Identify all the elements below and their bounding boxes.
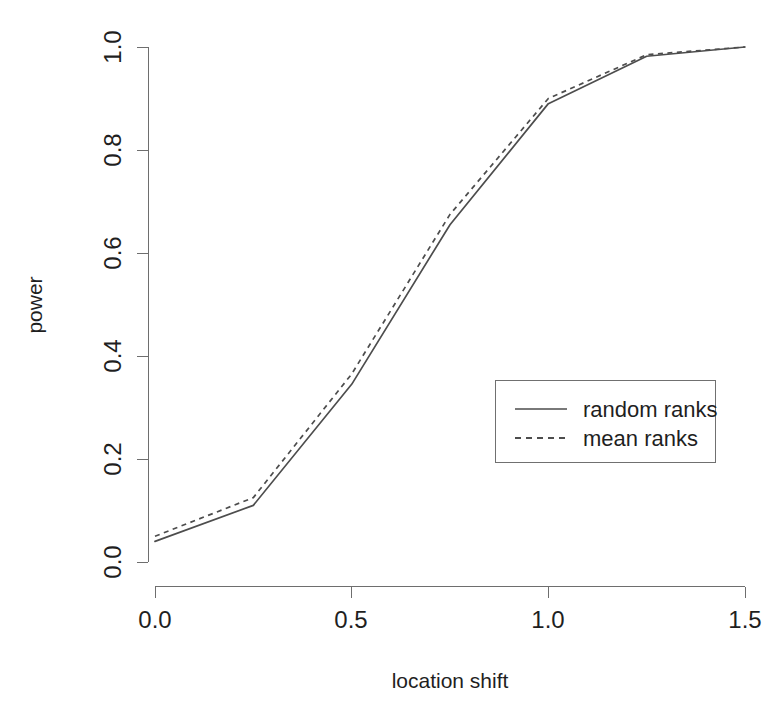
legend-label-mean-ranks: mean ranks	[583, 426, 698, 451]
y-tick-label: 0.6	[99, 236, 126, 269]
y-tick-label: 0.8	[99, 133, 126, 166]
y-tick-label: 0.4	[99, 339, 126, 372]
x-tick-group: 0.0 0.5 1.0 1.5	[138, 587, 761, 633]
legend-label-random-ranks: random ranks	[583, 397, 718, 422]
y-tick-label: 0.2	[99, 442, 126, 475]
x-axis-title: location shift	[392, 669, 509, 692]
series-random-ranks	[155, 47, 745, 541]
y-tick-label: 1.0	[99, 30, 126, 63]
x-tick-label: 1.5	[728, 606, 761, 633]
x-tick-label: 0.0	[138, 606, 171, 633]
power-curve-plot: 0.0 0.2 0.4 0.6 0.8 1.0 0.0 0.5 1.0 1.5 …	[0, 0, 776, 711]
x-tick-label: 0.5	[334, 606, 367, 633]
chart-legend: random ranks mean ranks	[496, 381, 718, 463]
chart-figure: 0.0 0.2 0.4 0.6 0.8 1.0 0.0 0.5 1.0 1.5 …	[0, 0, 776, 711]
x-tick-label: 1.0	[531, 606, 564, 633]
y-tick-group: 0.0 0.2 0.4 0.6 0.8 1.0	[99, 30, 148, 578]
y-tick-label: 0.0	[99, 545, 126, 578]
y-axis-title: power	[23, 276, 46, 333]
